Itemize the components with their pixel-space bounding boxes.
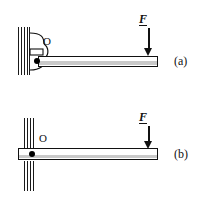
pivot-label-a: O (43, 36, 51, 47)
pivot-dot-b (29, 151, 35, 157)
force-label-b: F (139, 111, 147, 124)
beam-shade-b (19, 155, 157, 159)
panel-caption-b: (b) (174, 148, 188, 160)
force-arrow-shaft-a (148, 28, 150, 50)
wall-hatch-b-lower (24, 161, 35, 191)
panel-caption-a: (a) (174, 55, 187, 67)
pivot-label-b: O (39, 133, 47, 144)
force-label-a: F (139, 13, 147, 26)
figure-root: O F (a) O F (b) (0, 0, 203, 200)
panel-b: O F (b) (0, 100, 203, 200)
panel-a: O F (a) (0, 0, 203, 100)
force-arrow-head-b (144, 141, 152, 149)
force-arrow-head-a (144, 48, 152, 56)
beam-shade-a (39, 61, 157, 65)
hinge-bracket-a (0, 0, 203, 100)
wall-hatch-b-upper (24, 118, 35, 148)
pivot-dot-a (34, 58, 40, 64)
